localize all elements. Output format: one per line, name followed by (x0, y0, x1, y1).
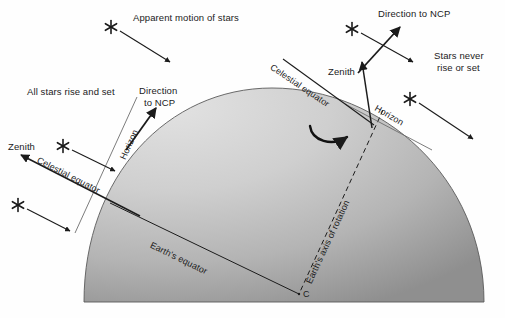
label-zenith-right: Zenith (328, 66, 355, 77)
star-icon-top (105, 21, 116, 34)
astronomy-diagram-svg (0, 0, 505, 318)
label-stars-never-line2: rise or set (437, 62, 480, 73)
star-icon-right-lower (404, 93, 415, 106)
label-apparent-motion-of-stars: Apparent motion of stars (133, 12, 239, 23)
star-motion-arrow-left-upper (72, 150, 115, 171)
label-direction-to-ncp-left-line2: to NCP (144, 97, 175, 108)
label-center-point-c: C (303, 289, 310, 300)
star-motion-arrow-right-upper (361, 33, 413, 62)
label-zenith-left: Zenith (8, 141, 35, 152)
label-all-stars-rise-and-set: All stars rise and set (27, 86, 115, 97)
star-icon-left-lower (12, 199, 23, 212)
label-direction-to-ncp-left-line1: Direction (139, 85, 177, 96)
earth-center-point (298, 293, 300, 295)
star-motion-arrow-top (120, 31, 170, 62)
star-icon-right-upper (346, 23, 357, 36)
earth-body (84, 88, 484, 302)
star-motion-arrow-right-lower (419, 103, 473, 139)
diagram-canvas: Apparent motion of stars All stars rise … (0, 0, 505, 318)
direction-to-ncp-arrow-right (358, 27, 400, 73)
label-stars-never-line1: Stars never (434, 50, 484, 61)
star-icon-left-upper (57, 140, 68, 153)
label-direction-to-ncp-right: Direction to NCP (378, 8, 450, 19)
star-motion-arrow-left-lower (27, 209, 70, 231)
